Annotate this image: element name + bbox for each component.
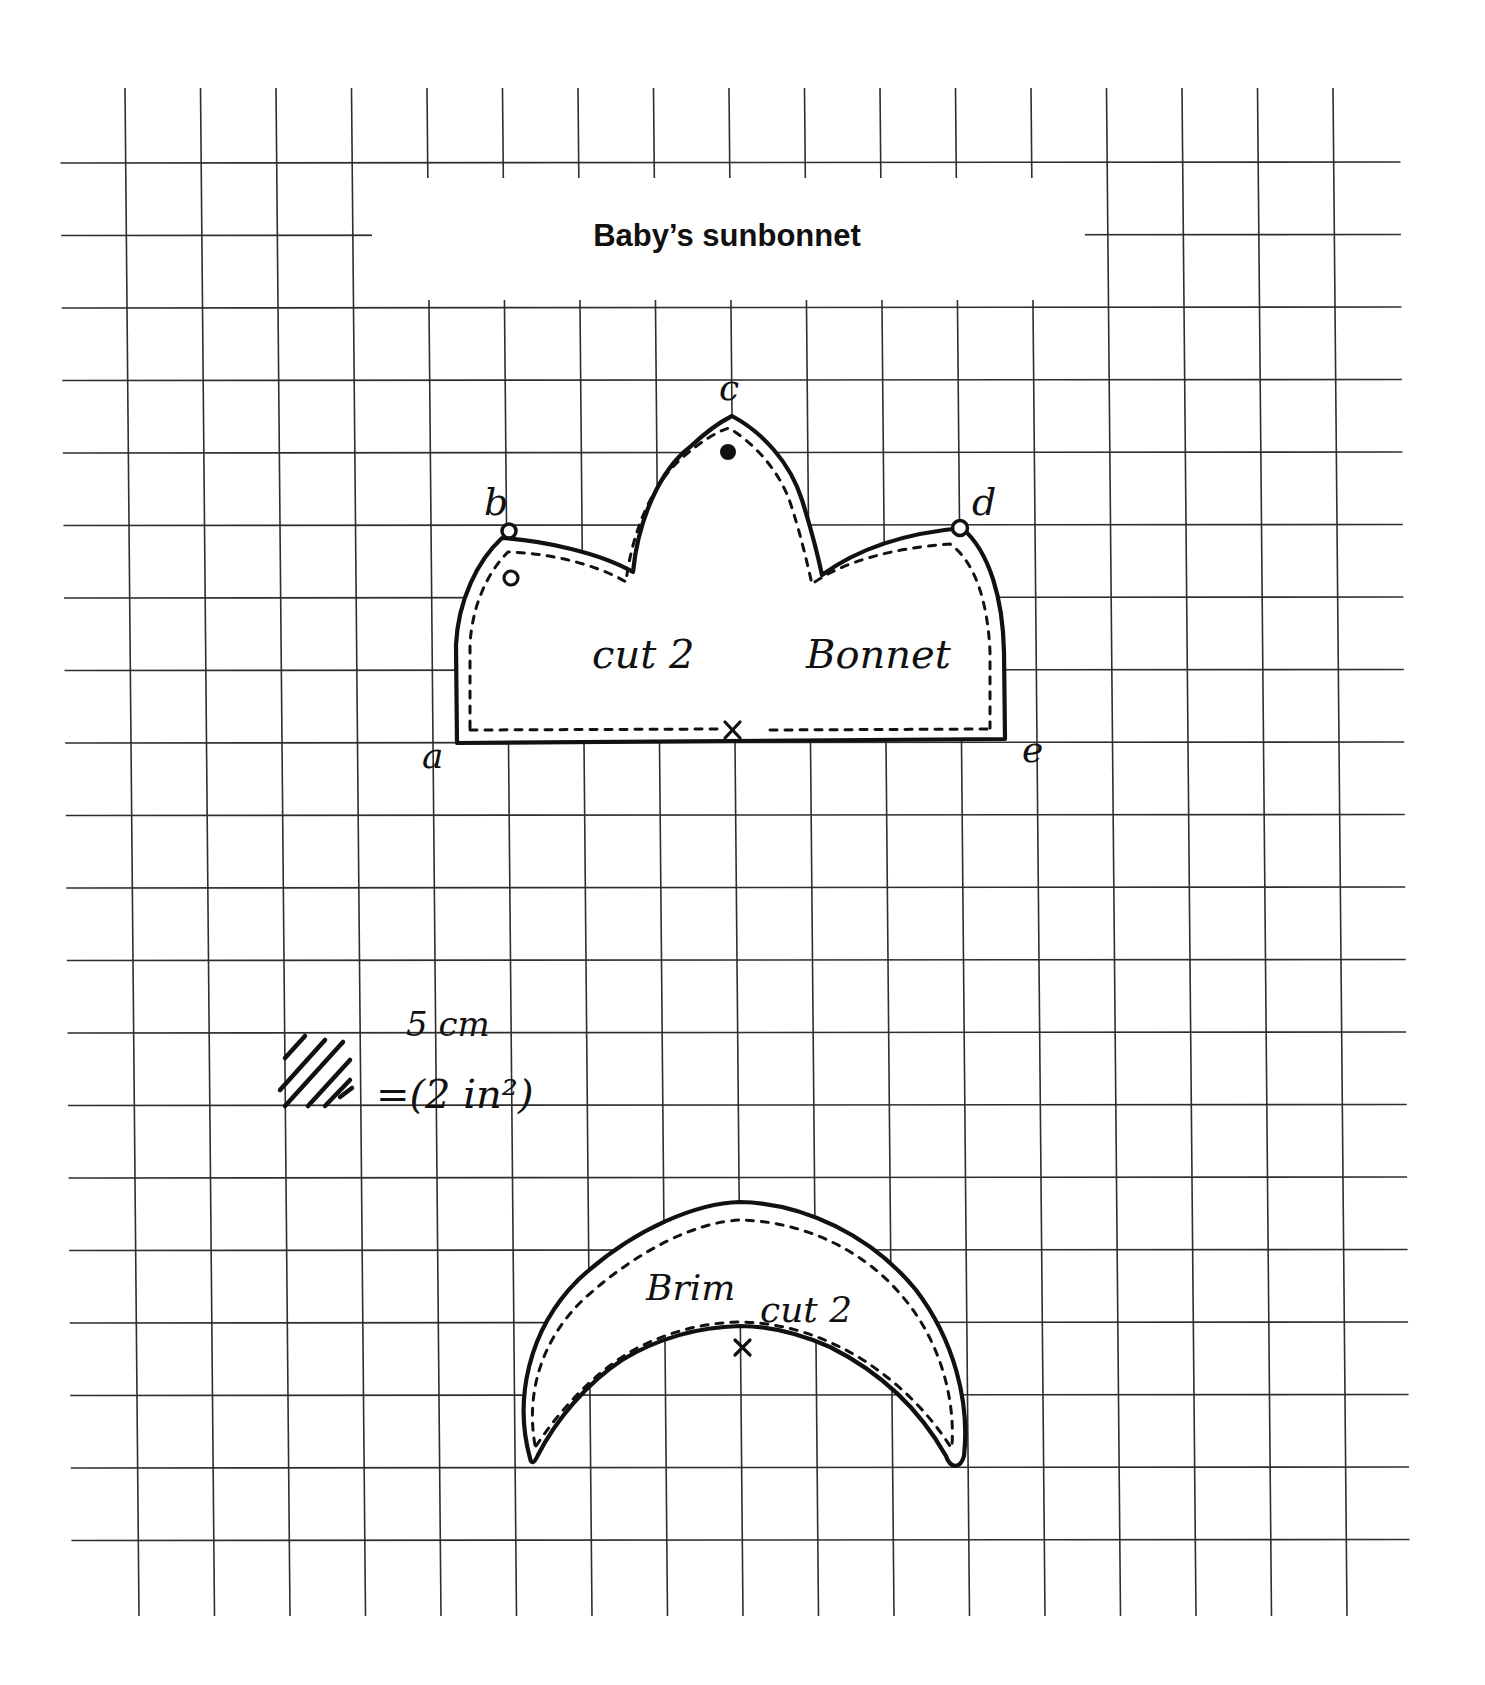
pattern-sheet: Baby’s sunbonnet a b c d e cut 2 Bonne: [0, 0, 1485, 1685]
brim-center-mark-icon: [735, 1340, 750, 1355]
grid-vertical-line: [729, 88, 743, 1616]
point-c-label: c: [719, 367, 739, 408]
bonnet-seam-bottom-right: [770, 729, 990, 730]
bonnet-outline: [456, 416, 1005, 743]
grid-horizontal-line: [68, 1105, 1407, 1106]
grid-paper: [61, 88, 1410, 1616]
bonnet-cut-instruction: cut 2: [592, 631, 694, 677]
grid-vertical-line: [276, 88, 290, 1616]
grid-horizontal-line: [70, 1395, 1408, 1396]
grid-vertical-line: [805, 88, 819, 1616]
grid-horizontal-line: [69, 1177, 1408, 1178]
page-title: Baby’s sunbonnet: [593, 218, 861, 253]
grid-horizontal-line: [67, 960, 1406, 961]
point-c-dot: [720, 444, 736, 460]
bonnet-pattern-piece: a b c d e cut 2 Bonnet: [422, 367, 1043, 776]
brim-cut-instruction: cut 2: [760, 1289, 852, 1330]
grid-vertical-line: [201, 88, 215, 1616]
point-b-marker: [502, 524, 516, 538]
point-e-label: e: [1022, 729, 1043, 770]
grid-vertical-line: [1182, 88, 1196, 1616]
scale-key: 5 cm =(2 in²): [280, 1004, 533, 1117]
grid-vertical-line: [125, 88, 139, 1616]
grid-horizontal-line: [67, 1032, 1406, 1033]
bonnet-piece-name: Bonnet: [805, 631, 952, 677]
grid-horizontal-line: [66, 887, 1405, 888]
grid-horizontal-line: [71, 1540, 1409, 1541]
grid-vertical-line: [1107, 88, 1121, 1616]
scale-imperial-label: =(2 in²): [376, 1071, 533, 1117]
grid-vertical-line: [1031, 88, 1045, 1616]
grid-horizontal-line: [62, 307, 1402, 308]
point-a-label: a: [422, 735, 443, 776]
bonnet-seam-bottom-left: [470, 729, 722, 730]
grid-horizontal-line: [61, 162, 1401, 163]
grid-vertical-line: [427, 88, 441, 1616]
brim-piece-name: Brim: [645, 1267, 735, 1308]
grid-horizontal-line: [66, 815, 1405, 816]
scale-metric-label: 5 cm: [406, 1004, 490, 1044]
hatched-square-icon: [280, 1036, 352, 1106]
grid-vertical-line: [352, 88, 366, 1616]
point-b-label: b: [484, 480, 508, 524]
grid-vertical-line: [503, 88, 517, 1616]
grid-vertical-line: [1333, 88, 1347, 1616]
grid-vertical-line: [1258, 88, 1272, 1616]
point-d-marker: [953, 521, 968, 536]
point-d-label: d: [972, 480, 996, 524]
grid-vertical-line: [654, 88, 668, 1616]
grid-horizontal-line: [71, 1467, 1409, 1468]
